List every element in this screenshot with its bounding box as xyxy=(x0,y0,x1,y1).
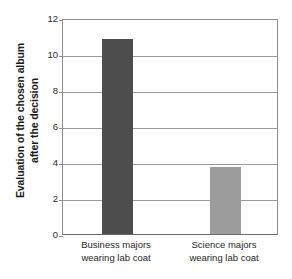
x-axis-category-label: Science majorswearing lab coat xyxy=(170,239,278,264)
y-axis-tick-mark xyxy=(59,128,63,129)
x-axis-category-label: Business majorswearing lab coat xyxy=(62,239,170,264)
gridline xyxy=(63,128,277,129)
y-axis-tick-label: 10 xyxy=(36,50,58,60)
gridline xyxy=(63,56,277,57)
x-axis-category-label-line-2: wearing lab coat xyxy=(62,252,170,265)
y-axis-tick-label: 8 xyxy=(36,86,58,96)
y-axis-tick-label: 4 xyxy=(36,158,58,168)
y-axis-title-line-1: Evaluation of the chosen album xyxy=(15,42,29,197)
y-axis-tick-label: 12 xyxy=(36,14,58,24)
y-axis-tick-mark xyxy=(59,92,63,93)
gridline xyxy=(63,92,277,93)
y-axis-tick-label: 2 xyxy=(36,194,58,204)
plot-area xyxy=(62,19,278,235)
gridline xyxy=(63,200,277,201)
y-axis-tick-mark xyxy=(59,56,63,57)
y-axis-tick-mark xyxy=(59,200,63,201)
x-axis-category-labels: Business majorswearing lab coatScience m… xyxy=(62,239,278,277)
x-axis-category-label-line-1: Business majors xyxy=(62,239,170,252)
y-axis-tick-mark xyxy=(59,164,63,165)
bar xyxy=(210,167,241,235)
x-axis-category-label-line-1: Science majors xyxy=(170,239,278,252)
y-axis-tick-labels: 024681012 xyxy=(36,0,58,279)
bar-chart-figure: Evaluation of the chosen album after the… xyxy=(0,0,292,279)
y-axis-tick-mark xyxy=(59,20,63,21)
y-axis-tick-label: 6 xyxy=(36,122,58,132)
y-axis-tick-mark xyxy=(59,236,63,237)
bar xyxy=(102,39,133,234)
gridline xyxy=(63,164,277,165)
y-axis-tick-label: 0 xyxy=(36,230,58,240)
x-axis-category-label-line-2: wearing lab coat xyxy=(170,252,278,265)
